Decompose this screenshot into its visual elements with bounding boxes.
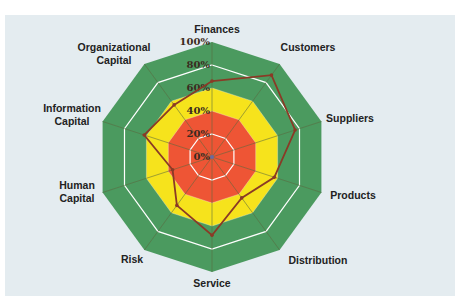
data-point bbox=[175, 204, 179, 208]
radial-tick-label: 20% bbox=[187, 128, 211, 139]
category-label: Finances bbox=[194, 23, 240, 35]
data-point bbox=[273, 176, 277, 180]
radial-tick-label: 40% bbox=[187, 105, 211, 116]
data-point bbox=[142, 133, 146, 137]
radial-tick-label: 80% bbox=[187, 59, 211, 70]
category-label: InformationCapital bbox=[43, 102, 101, 127]
category-label: Service bbox=[193, 277, 231, 289]
category-label: Suppliers bbox=[326, 112, 374, 124]
data-point bbox=[171, 168, 175, 172]
center-dot bbox=[210, 155, 214, 159]
data-point bbox=[210, 233, 214, 237]
data-point bbox=[240, 196, 244, 200]
data-point bbox=[270, 73, 274, 77]
category-label: HumanCapital bbox=[59, 179, 95, 204]
category-label: Risk bbox=[121, 253, 143, 265]
category-label: Distribution bbox=[289, 254, 348, 266]
category-label: Products bbox=[330, 189, 376, 201]
data-point bbox=[172, 103, 176, 107]
category-label: OrganizationalCapital bbox=[78, 41, 151, 66]
radial-tick-label: 0% bbox=[194, 151, 211, 162]
category-label: Customers bbox=[281, 41, 336, 53]
radar-chart: 0%20%40%60%80%100%FinancesCustomersSuppl… bbox=[0, 0, 463, 306]
data-point bbox=[293, 128, 297, 132]
data-point bbox=[210, 79, 214, 83]
radial-tick-label: 100% bbox=[180, 36, 211, 47]
